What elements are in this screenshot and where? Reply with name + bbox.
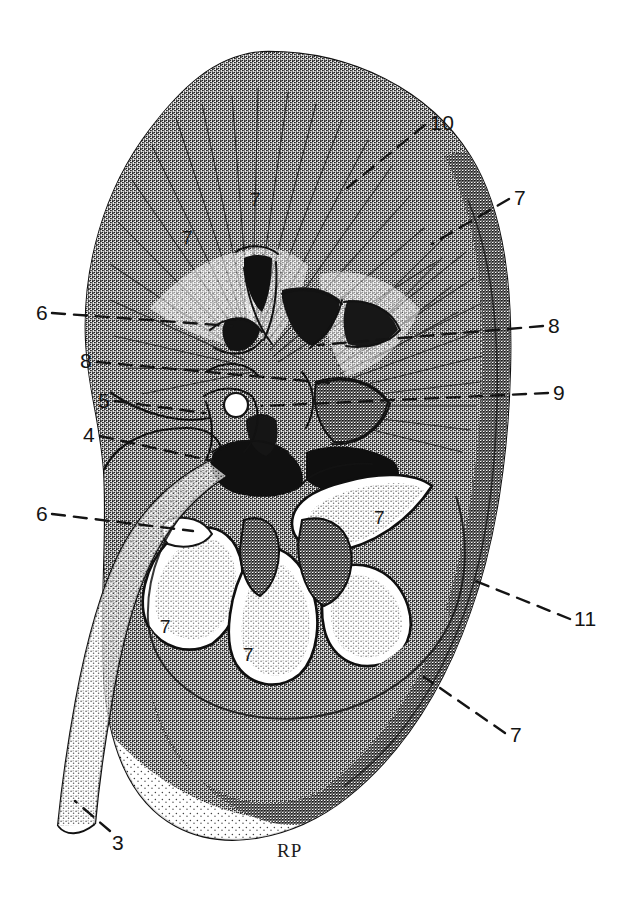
leader-label-10: 10: [430, 112, 454, 133]
leader-label-5-left: 5: [98, 390, 110, 411]
renal-vessel-lumen: [224, 393, 248, 417]
leader-label-6-upper-left: 6: [36, 302, 48, 323]
inner-label-7-pyramid-mid: 7: [243, 645, 254, 664]
inner-label-7-pyramid-right: 7: [374, 508, 385, 527]
leader-label-3-ureter: 3: [112, 832, 124, 853]
leader-label-4-left: 4: [83, 424, 95, 445]
leader-label-8-right: 8: [548, 315, 560, 336]
kidney-illustration: [0, 0, 621, 903]
leader-label-9-right: 9: [553, 382, 565, 403]
kidney-diagram-figure: 10 7 6 8 8 9 5 4 6 11 7 3 7 7 7 7 7 RP: [0, 0, 621, 903]
leader-label-8-left: 8: [80, 350, 92, 371]
leader-label-11-right: 11: [574, 608, 597, 629]
inner-label-7-upper-mid: 7: [250, 190, 261, 209]
leader-label-6-lower-left: 6: [36, 503, 48, 524]
inner-label-7-upper-left: 7: [182, 228, 193, 247]
leader-label-7-upper-right: 7: [514, 187, 526, 208]
artist-signature: RP: [277, 841, 302, 860]
inner-label-7-pyramid-left: 7: [160, 617, 171, 636]
leader-label-7-lower-right: 7: [510, 724, 522, 745]
